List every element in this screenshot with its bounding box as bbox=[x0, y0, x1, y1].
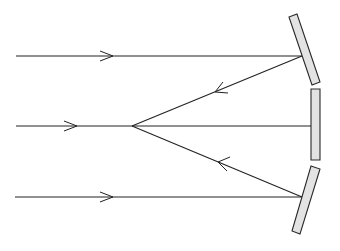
mirror-middle bbox=[311, 89, 320, 160]
optics-diagram bbox=[0, 0, 340, 251]
mirror-bottom bbox=[292, 166, 320, 234]
reflected-ray-lower bbox=[132, 126, 302, 197]
reflected-ray-upper bbox=[132, 56, 302, 126]
mirror-top bbox=[289, 14, 320, 85]
